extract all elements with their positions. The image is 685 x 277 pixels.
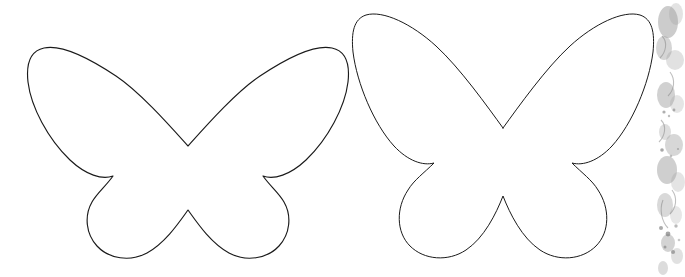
butterfly-right-outline [352, 14, 653, 258]
scanned-page: Butterfly template outlines Scanned line… [0, 0, 685, 277]
butterfly-right-figure [0, 0, 685, 277]
